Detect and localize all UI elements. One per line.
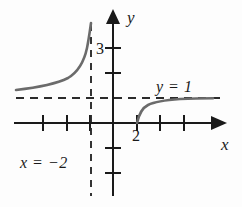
y-tick-label-3: 3 [96, 41, 104, 57]
coordinate-plane [0, 0, 242, 207]
x-axis-arrow-icon [211, 116, 227, 130]
x-tick-label-2: 2 [132, 128, 140, 144]
graph-figure: y x 3 2 x = −2 y = 1 [0, 0, 242, 207]
curve-left-branch [16, 23, 91, 90]
horizontal-asymptote-label: y = 1 [156, 79, 192, 95]
vertical-asymptote-label: x = −2 [20, 155, 68, 171]
x-axis-label: x [221, 136, 229, 153]
y-axis-arrow-icon [106, 9, 120, 24]
y-axis-label: y [127, 9, 135, 26]
curve-right-branch [137, 98, 213, 123]
